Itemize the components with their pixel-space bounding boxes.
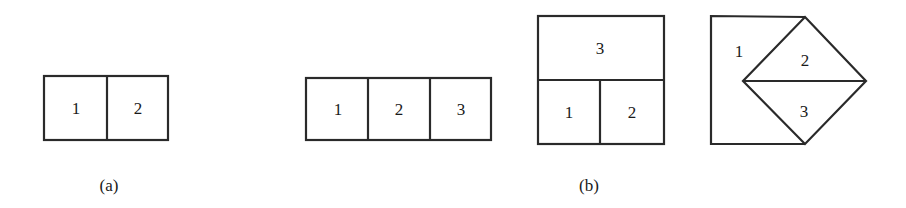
region-label-top: 3	[596, 39, 605, 58]
figure-b-stacked-layout: 3 1 2	[538, 16, 664, 144]
cell-label-2: 2	[395, 100, 404, 119]
caption-b: (b)	[579, 176, 599, 195]
figure-b-diamond-layout: 1 2 3	[711, 16, 866, 144]
caption-a: (a)	[100, 176, 119, 195]
figure-b-three-cell-row: 1 2 3	[306, 78, 491, 140]
region-label-lower-triangle: 3	[800, 102, 809, 121]
region-label-left: 1	[735, 42, 744, 61]
figure-a-two-cell-row: 1 2	[44, 76, 168, 140]
region-label-bottom-right: 2	[628, 103, 637, 122]
cell-label-1: 1	[334, 100, 343, 119]
region-label-upper-triangle: 2	[801, 51, 810, 70]
cell-label-3: 3	[457, 100, 466, 119]
cell-label-1: 1	[72, 99, 81, 118]
figure-canvas: 1 2 (a) 1 2 3 3 1 2 (b) 1 2 3	[0, 0, 906, 208]
region-label-bottom-left: 1	[565, 103, 574, 122]
cell-label-2: 2	[134, 99, 143, 118]
